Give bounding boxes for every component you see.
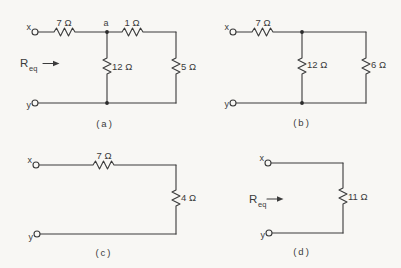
terminal-y-label-a: y — [27, 100, 32, 110]
resistor-4ohm-branch — [172, 165, 180, 234]
resistor-label-7ohm-b: 7 Ω — [255, 17, 270, 28]
terminal-y-label-c: y — [29, 232, 34, 242]
resistor-label-4ohm-c: 4 Ω — [181, 192, 196, 203]
terminal-y-label-b: y — [225, 99, 230, 109]
terminal-x-c — [33, 162, 39, 168]
circuit-c: x y 7 Ω 4 Ω (c) — [28, 150, 197, 258]
terminal-y-a — [32, 100, 38, 106]
terminal-y-c — [34, 231, 40, 237]
circuit-d: x y 11 Ω R eq (d) — [249, 153, 368, 257]
req-subscript-a: eq — [29, 64, 37, 73]
resistor-label-1ohm-a: 1 Ω — [124, 17, 139, 28]
node-b-dot-top — [300, 30, 304, 34]
terminal-x-label-d: x — [260, 153, 265, 163]
terminal-y-label-d: y — [261, 230, 266, 240]
resistor-label-7ohm-a: 7 Ω — [56, 17, 71, 28]
req-arrowhead-icon-d — [277, 196, 284, 201]
req-arrowhead-icon-a — [53, 61, 60, 66]
req-subscript-d: eq — [258, 200, 266, 209]
resistor-label-7ohm-c: 7 Ω — [96, 150, 111, 161]
req-label-a: R — [20, 57, 28, 69]
resistor-6ohm-branch — [362, 32, 370, 103]
wire-top-c — [39, 161, 176, 169]
resistor-label-12ohm-a: 12 Ω — [112, 61, 132, 72]
terminal-y-b — [230, 100, 236, 106]
terminal-y-d — [266, 230, 272, 236]
terminal-x-b — [230, 29, 236, 35]
terminal-x-label-a: x — [27, 22, 32, 32]
terminal-x-label-c: x — [28, 155, 33, 165]
caption-c: (c) — [95, 247, 112, 258]
resistor-label-11ohm-d: 11 Ω — [348, 191, 368, 202]
circuit-figure: x y 7 Ω a 1 Ω 12 Ω 5 Ω R eq (a) x y 7 Ω … — [0, 0, 401, 268]
terminal-x-a — [32, 29, 38, 35]
node-a-dot-bottom — [105, 101, 109, 105]
resistor-11ohm-branch — [339, 163, 347, 233]
resistor-label-12ohm-b: 12 Ω — [307, 59, 327, 70]
resistor-12ohm-branch-a — [103, 32, 111, 103]
terminal-x-label-b: x — [225, 22, 230, 32]
caption-d: (d) — [293, 246, 311, 257]
caption-b: (b) — [293, 117, 311, 128]
node-a-label: a — [103, 18, 108, 28]
req-label-d: R — [249, 193, 257, 205]
circuit-b: x y 7 Ω 12 Ω 6 Ω (b) — [225, 17, 387, 128]
resistor-label-5ohm-a: 5 Ω — [181, 61, 196, 72]
resistor-5ohm-branch — [172, 32, 180, 103]
circuit-a: x y 7 Ω a 1 Ω 12 Ω 5 Ω R eq (a) — [20, 17, 196, 129]
terminal-x-d — [265, 160, 271, 166]
circuit-diagram-svg: x y 7 Ω a 1 Ω 12 Ω 5 Ω R eq (a) x y 7 Ω … — [0, 0, 401, 268]
node-a-dot-top — [105, 30, 109, 34]
caption-a: (a) — [96, 118, 114, 129]
node-b-dot-bottom — [300, 101, 304, 105]
resistor-label-6ohm-b: 6 Ω — [371, 59, 386, 70]
resistor-12ohm-branch-b — [298, 32, 306, 103]
